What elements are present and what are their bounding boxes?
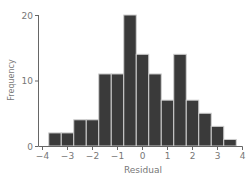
- y-tick-label: 0: [27, 142, 33, 152]
- x-axis-label: Residual: [124, 165, 162, 175]
- histogram-bar: [149, 74, 162, 146]
- y-tick-label: 20: [22, 11, 34, 21]
- histogram-svg: 01020−4−3−2−101234 Residual Frequency: [0, 0, 251, 183]
- histogram-bar: [174, 54, 187, 146]
- histogram-bar: [211, 126, 224, 146]
- histogram-bar: [49, 133, 62, 146]
- x-tick-label: 3: [215, 151, 221, 161]
- x-tick-label: 4: [240, 151, 246, 161]
- residual-histogram: 01020−4−3−2−101234 Residual Frequency: [0, 0, 251, 183]
- y-tick-label: 10: [22, 76, 34, 86]
- y-axis-label: Frequency: [7, 59, 16, 101]
- histogram-bar: [99, 74, 112, 146]
- histogram-bar: [61, 133, 74, 146]
- histogram-bar: [111, 74, 124, 146]
- histogram-bar: [136, 54, 149, 146]
- bars-group: [49, 15, 237, 146]
- x-tick-label: 0: [140, 151, 146, 161]
- x-tick-label: −1: [111, 151, 124, 161]
- x-tick-label: −3: [61, 151, 74, 161]
- x-tick-label: 2: [190, 151, 196, 161]
- x-tick-label: −4: [36, 151, 50, 161]
- histogram-bar: [224, 139, 237, 146]
- histogram-bar: [199, 113, 212, 146]
- histogram-bar: [86, 120, 99, 146]
- histogram-bar: [161, 100, 174, 146]
- x-tick-label: −2: [86, 151, 99, 161]
- histogram-bar: [124, 15, 137, 146]
- x-tick-label: 1: [165, 151, 171, 161]
- histogram-bar: [186, 100, 199, 146]
- histogram-bar: [74, 120, 87, 146]
